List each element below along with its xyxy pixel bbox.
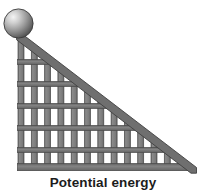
ramp-post [187, 36, 192, 171]
ramp-diagram [0, 0, 206, 195]
ramp-baseline-bar [17, 164, 195, 172]
potential-energy-figure: Potential energy [0, 0, 206, 195]
ramp-post [178, 36, 184, 171]
ramp-crossbar [17, 82, 195, 87]
figure-caption: Potential energy [0, 175, 206, 190]
ball-icon [4, 9, 33, 38]
ramp-crossbar [17, 126, 195, 131]
